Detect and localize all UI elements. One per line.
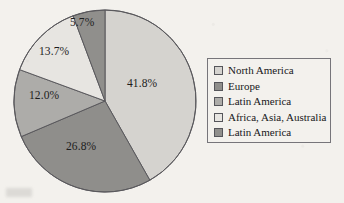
pie-slice-group	[14, 10, 196, 192]
pie-slice-percent-label: 26.8%	[66, 140, 96, 152]
legend-item-label: North America	[228, 65, 294, 76]
legend-item: North America	[214, 63, 325, 79]
pie-slice-percent-label: 12.0%	[29, 89, 59, 101]
legend-swatch-icon	[214, 113, 223, 122]
legend-item-label: Africa, Asia, Australia	[228, 112, 326, 123]
chart-legend: North AmericaEuropeLatin AmericaAfrica, …	[207, 58, 331, 143]
legend-item-label: Europe	[228, 81, 260, 92]
legend-swatch-icon	[214, 97, 223, 106]
legend-item-label: Latin America	[228, 127, 291, 138]
legend-item: Africa, Asia, Australia	[214, 110, 325, 126]
legend-item: Europe	[214, 79, 325, 95]
legend-swatch-icon	[214, 82, 223, 91]
legend-item: Latin America	[214, 94, 325, 110]
pie-slice-percent-label: 13.7%	[39, 45, 69, 57]
pie-slice-percent-label: 41.8%	[127, 77, 157, 89]
legend-item: Latin America	[214, 125, 325, 141]
legend-swatch-icon	[214, 128, 223, 137]
pie-chart-figure: 41.8%26.8%12.0%13.7%5.7% North AmericaEu…	[0, 0, 344, 203]
legend-item-label: Latin America	[228, 96, 291, 107]
legend-swatch-icon	[214, 66, 223, 75]
pie-slice-percent-label: 5.7%	[70, 16, 94, 28]
